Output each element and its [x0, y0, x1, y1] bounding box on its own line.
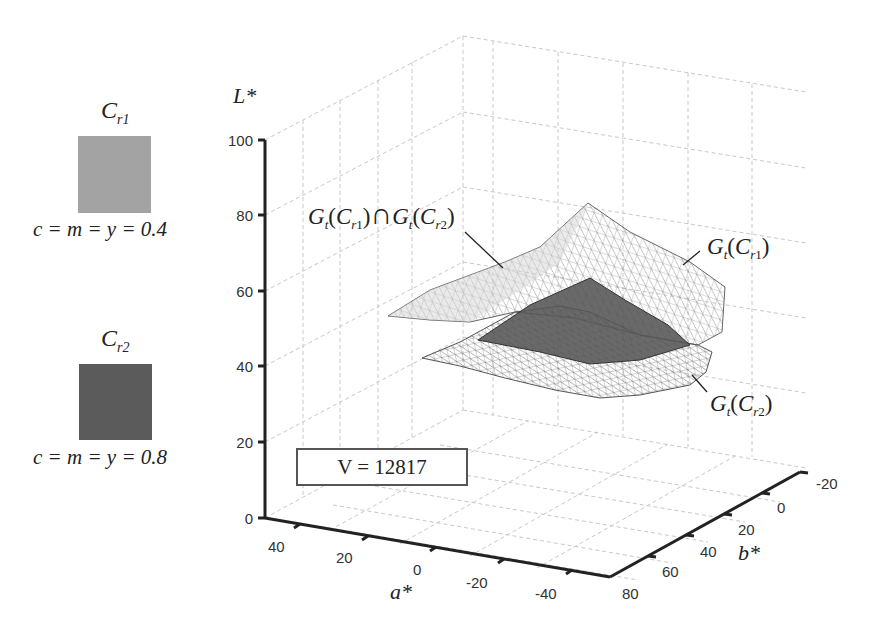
z-axis — [258, 140, 265, 518]
z-tick-100: 100 — [228, 132, 253, 149]
z-tick-40: 40 — [236, 358, 253, 375]
label-gamut1: Gt(Cr1) — [707, 234, 770, 262]
label-intersection: Gt(Cr1)∩Gt(Cr2) — [308, 197, 455, 232]
z-tick-60: 60 — [236, 283, 253, 300]
y-axis-label: b* — [738, 540, 760, 565]
svg-text:Gt(Cr2): Gt(Cr2) — [710, 391, 773, 419]
x-tick-neg40: -40 — [535, 585, 557, 602]
svg-text:Gt(Cr1): Gt(Cr1) — [707, 234, 770, 262]
y-tick-40: 40 — [700, 543, 717, 560]
x-axis-label: a* — [390, 579, 412, 604]
x-tick-40: 40 — [268, 538, 285, 555]
volume-annotation: V = 12817 — [297, 449, 467, 485]
grid-back-left-wall — [265, 36, 463, 497]
y-axis — [610, 472, 808, 577]
y-tick-20: 20 — [738, 521, 755, 538]
leader-intersection — [465, 232, 503, 268]
y-tick-neg20: -20 — [816, 475, 838, 492]
x-axis — [265, 518, 610, 577]
y-tick-0: 0 — [777, 499, 785, 516]
z-axis-label: L* — [232, 83, 256, 108]
svg-text:V = 12817: V = 12817 — [337, 455, 427, 479]
label-gamut2: Gt(Cr2) — [710, 391, 773, 419]
svg-text:Gt(Cr1)∩Gt(Cr2): Gt(Cr1)∩Gt(Cr2) — [308, 197, 455, 232]
plot-3d: 100 80 60 40 20 0 L* 40 20 0 -20 -40 a* … — [0, 0, 875, 628]
y-tick-80: 80 — [622, 585, 639, 602]
y-tick-60: 60 — [662, 563, 679, 580]
x-tick-neg20: -20 — [466, 574, 488, 591]
z-tick-0: 0 — [245, 510, 253, 527]
x-tick-20: 20 — [336, 549, 353, 566]
z-tick-80: 80 — [236, 207, 253, 224]
z-tick-20: 20 — [236, 434, 253, 451]
x-tick-0: 0 — [413, 561, 421, 578]
